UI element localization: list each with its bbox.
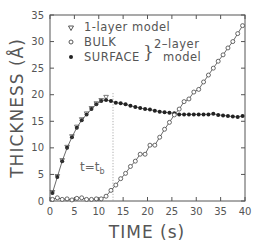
data-point xyxy=(143,107,147,111)
data-point xyxy=(70,198,74,202)
data-point xyxy=(202,112,206,116)
data-point xyxy=(104,194,108,198)
data-point xyxy=(133,159,137,163)
data-point xyxy=(80,196,84,200)
data-point xyxy=(158,110,162,114)
data-point xyxy=(114,101,118,105)
data-point xyxy=(148,143,152,147)
tb-annotation: t=tb xyxy=(80,160,105,176)
data-point xyxy=(231,115,235,119)
data-point xyxy=(177,107,181,111)
data-point xyxy=(236,115,240,119)
x-tick-label: 35 xyxy=(214,206,227,217)
data-point xyxy=(138,106,142,110)
data-point xyxy=(182,100,186,104)
data-point xyxy=(197,112,201,116)
legend-group-label-line2: model xyxy=(163,50,201,64)
x-tick-label: 5 xyxy=(71,206,77,217)
data-point xyxy=(226,114,230,118)
data-point xyxy=(187,97,191,101)
y-tick-label: 10 xyxy=(31,142,44,153)
data-point xyxy=(94,197,98,201)
x-tick-label: 40 xyxy=(239,206,252,217)
data-point xyxy=(55,196,59,200)
x-tick-label: 25 xyxy=(166,206,179,217)
data-point xyxy=(172,113,176,117)
data-point xyxy=(50,197,54,201)
series-surface xyxy=(50,98,244,195)
data-point xyxy=(114,183,118,187)
data-point xyxy=(163,110,167,114)
data-point xyxy=(124,102,128,106)
y-tick-label: 15 xyxy=(31,116,44,127)
x-tick-label: 15 xyxy=(117,206,130,217)
data-point xyxy=(128,164,132,168)
data-point xyxy=(119,177,123,181)
data-point xyxy=(202,80,206,84)
data-point xyxy=(167,111,171,115)
series-1-layer-model xyxy=(50,95,108,194)
data-point xyxy=(241,24,245,28)
data-point xyxy=(109,99,113,103)
data-point xyxy=(99,197,103,201)
legend-label-surface: SURFACE xyxy=(84,50,140,64)
data-point xyxy=(206,73,210,77)
data-point xyxy=(211,112,215,116)
data-point xyxy=(221,113,225,117)
data-point xyxy=(206,112,210,116)
y-tick-label: 30 xyxy=(31,36,44,47)
data-point xyxy=(85,197,89,201)
x-axis-title: TIME (s) xyxy=(108,222,185,242)
legend-label-1layer: 1-layer model xyxy=(84,20,170,34)
y-axis-title: THICKNESS (Å) xyxy=(6,38,27,179)
data-point xyxy=(65,197,69,201)
legend-group-label-line1: 2–layer xyxy=(154,37,199,51)
data-point xyxy=(128,104,132,108)
y-tick-label: 25 xyxy=(31,63,44,74)
x-tick-label: 0 xyxy=(47,206,53,217)
x-tick-label: 30 xyxy=(190,206,203,217)
x-tick-label: 10 xyxy=(92,206,105,217)
data-point xyxy=(89,197,93,201)
data-point xyxy=(109,188,113,192)
x-tick-label: 20 xyxy=(141,206,154,217)
legend-label-bulk: BULK xyxy=(84,35,116,49)
data-point xyxy=(211,66,215,70)
data-point xyxy=(138,152,142,156)
data-point xyxy=(236,32,240,36)
data-point xyxy=(177,112,181,116)
y-tick-label: 20 xyxy=(31,89,44,100)
data-point xyxy=(104,95,109,99)
data-point xyxy=(153,143,157,147)
circle-open-icon xyxy=(69,40,73,44)
data-point xyxy=(75,196,79,200)
thickness-vs-time-chart: 05101520253035 0510152025303540 t=tb 1-l… xyxy=(0,0,256,245)
data-point xyxy=(197,87,201,91)
legend: 1-layer model BULK SURFACE } 2–layer mod… xyxy=(69,20,202,64)
data-point xyxy=(158,135,162,139)
data-point xyxy=(241,114,245,118)
data-point xyxy=(216,113,220,117)
data-point xyxy=(192,112,196,116)
data-point xyxy=(231,40,235,44)
data-point xyxy=(192,90,196,94)
data-point xyxy=(187,112,191,116)
data-point xyxy=(216,59,220,63)
triangle-down-icon xyxy=(69,26,74,31)
tb-subscript: b xyxy=(99,167,104,176)
data-point xyxy=(163,127,167,131)
data-point xyxy=(182,112,186,116)
data-point xyxy=(153,109,157,113)
data-point xyxy=(119,101,123,105)
data-point xyxy=(148,108,152,112)
y-tick-label: 5 xyxy=(38,169,44,180)
data-point xyxy=(124,171,128,175)
data-point xyxy=(167,120,171,124)
data-point xyxy=(133,105,137,109)
data-point xyxy=(221,53,225,57)
data-point xyxy=(226,46,230,50)
data-point xyxy=(60,197,64,201)
y-axis: 05101520253035 xyxy=(31,10,245,207)
y-tick-label: 0 xyxy=(38,196,44,207)
data-point xyxy=(143,152,147,156)
